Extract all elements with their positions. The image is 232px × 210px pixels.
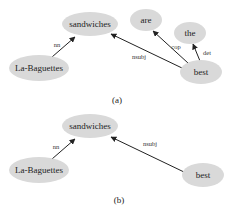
dependency-diagrams: nn nsubj cop det sandwiches are the La-B… bbox=[0, 0, 232, 210]
svg-text:are: are bbox=[141, 15, 152, 25]
svg-text:best: best bbox=[196, 170, 211, 180]
caption-a: (a) bbox=[112, 95, 122, 105]
edge-label-nsubj-a: nsubj bbox=[132, 53, 146, 60]
node-la-baguettes-a: La-Baguettes bbox=[9, 55, 69, 81]
node-sandwiches-b: sandwiches bbox=[62, 114, 118, 138]
edge-label-cop-a: cop bbox=[171, 43, 180, 50]
svg-text:the: the bbox=[185, 28, 196, 38]
caption-b: (b) bbox=[114, 195, 125, 205]
svg-text:sandwiches: sandwiches bbox=[69, 121, 111, 131]
svg-text:La-Baguettes: La-Baguettes bbox=[15, 165, 63, 175]
edge-label-nn-b: nn bbox=[53, 143, 60, 150]
node-best-a: best bbox=[180, 60, 222, 84]
diagram-a: nn nsubj cop det sandwiches are the La-B… bbox=[9, 9, 222, 105]
edge-det-a bbox=[193, 44, 200, 61]
edge-label-nsubj-b: nsubj bbox=[143, 140, 157, 147]
edge-label-nn-a: nn bbox=[54, 41, 61, 48]
node-are-a: are bbox=[130, 9, 162, 31]
node-the-a: the bbox=[174, 22, 206, 44]
node-best-b: best bbox=[182, 163, 224, 187]
edge-label-det-a: det bbox=[203, 49, 211, 56]
diagram-b: nn nsubj sandwiches La-Baguettes best (b… bbox=[9, 114, 224, 205]
node-la-baguettes-b: La-Baguettes bbox=[9, 157, 69, 183]
svg-text:sandwiches: sandwiches bbox=[69, 19, 111, 29]
edge-nsubj-a bbox=[111, 34, 182, 68]
svg-text:best: best bbox=[194, 67, 209, 77]
node-sandwiches-a: sandwiches bbox=[62, 12, 118, 36]
svg-text:La-Baguettes: La-Baguettes bbox=[15, 63, 63, 73]
